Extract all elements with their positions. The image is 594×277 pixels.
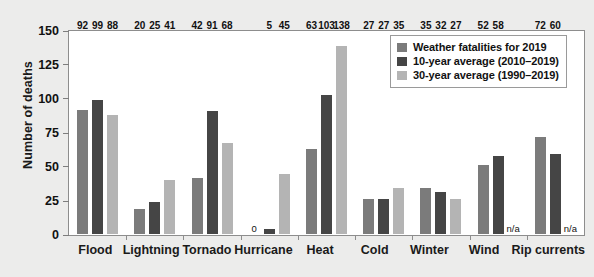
- x-axis-category-label: Lightning: [123, 243, 180, 257]
- x-axis-category-label: Cold: [347, 243, 402, 257]
- legend-swatch-icon: [397, 57, 407, 66]
- bar-slot: 5: [263, 31, 276, 235]
- x-axis-category-label: Flood: [68, 243, 123, 257]
- bar[interactable]: 99: [91, 99, 104, 235]
- x-axis-tick-mark: [298, 235, 299, 240]
- bar-slot: 42: [191, 31, 204, 235]
- y-axis-tick: 100: [38, 92, 69, 106]
- x-axis-category-label: Tornado: [180, 243, 235, 257]
- bar-value-label: 99: [92, 20, 103, 31]
- bar-slot: 99: [91, 31, 104, 235]
- bar-group: 429168: [183, 31, 240, 235]
- bar[interactable]: 35: [419, 187, 432, 235]
- bar-slot: 25: [148, 31, 161, 235]
- bar-value-label: 42: [191, 20, 202, 31]
- bar-value-label: 92: [77, 20, 88, 31]
- bar[interactable]: 72: [534, 136, 547, 235]
- bar-value-label: 88: [107, 20, 118, 31]
- y-axis-tick-label: 75: [45, 126, 59, 140]
- x-axis-tick-mark: [183, 235, 184, 240]
- x-axis-category-label: Rip currents: [511, 243, 585, 257]
- y-axis-tick: 150: [38, 24, 69, 38]
- y-axis-title: Number of deaths: [21, 35, 35, 195]
- bar-value-label: 0: [252, 223, 257, 234]
- bar-slot: 88: [106, 31, 119, 235]
- x-axis-tick-mark: [355, 235, 356, 240]
- x-axis-labels: FloodLightningTornadoHurricaneHeatColdWi…: [68, 243, 585, 257]
- bar[interactable]: 58: [492, 155, 505, 235]
- bar-value-label: 5: [266, 20, 272, 31]
- bar-group: 63103138: [298, 31, 355, 235]
- x-axis-tick-mark: [126, 235, 127, 240]
- bar-group: 929988: [69, 31, 126, 235]
- legend-swatch-icon: [397, 71, 407, 80]
- bar-value-label: 25: [149, 20, 160, 31]
- x-axis-tick-mark: [470, 235, 471, 240]
- bar-slot: 91: [206, 31, 219, 235]
- bar-slot: 103: [320, 31, 333, 235]
- bar-value-label: 60: [550, 20, 561, 31]
- bar[interactable]: 35: [392, 187, 405, 235]
- bar[interactable]: 5: [263, 228, 276, 235]
- bar-value-label: 35: [393, 20, 404, 31]
- bar[interactable]: 20: [133, 208, 146, 235]
- x-axis-tick-mark: [527, 235, 528, 240]
- bar[interactable]: 52: [477, 164, 490, 235]
- legend-item[interactable]: 10-year average (2010–2019): [397, 54, 559, 68]
- bar[interactable]: 91: [206, 110, 219, 235]
- bar-value-label: 58: [493, 20, 504, 31]
- x-axis-category-label: Wind: [457, 243, 512, 257]
- bar[interactable]: 103: [320, 94, 333, 235]
- bar-value-label: 45: [279, 20, 290, 31]
- x-axis-category-label: Winter: [402, 243, 457, 257]
- bar-value-label: 27: [378, 20, 389, 31]
- bar-slot: 20: [133, 31, 146, 235]
- bar[interactable]: 25: [148, 201, 161, 235]
- legend-swatch-icon: [397, 43, 407, 52]
- legend: Weather fatalities for 201910-year avera…: [390, 35, 567, 88]
- weather-fatalities-bar-chart: Number of deaths 0255075100125150 929988…: [0, 0, 594, 277]
- bar-value-label: 27: [363, 20, 374, 31]
- y-axis-tick-label: 25: [45, 194, 59, 208]
- bar-value-label: 138: [333, 20, 350, 31]
- bar-slot: 63: [305, 31, 318, 235]
- bar-slot: 68: [221, 31, 234, 235]
- bar[interactable]: 27: [449, 198, 462, 235]
- legend-label: 10-year average (2010–2019): [413, 55, 559, 67]
- bar[interactable]: 27: [362, 198, 375, 235]
- bar[interactable]: 138: [335, 45, 348, 235]
- y-axis-tick-label: 0: [52, 228, 59, 242]
- bar[interactable]: 88: [106, 114, 119, 235]
- bar-value-label: 52: [478, 20, 489, 31]
- bar-slot: 92: [76, 31, 89, 235]
- bar-value-label: 20: [134, 20, 145, 31]
- bar[interactable]: 45: [278, 173, 291, 235]
- legend-item[interactable]: 30-year average (1990–2019): [397, 68, 559, 82]
- bar[interactable]: 41: [163, 179, 176, 235]
- bar-value-label: 27: [450, 20, 461, 31]
- bar-value-label: 68: [221, 20, 232, 31]
- bar-group: 0545: [241, 31, 298, 235]
- y-axis-tick-label: 150: [38, 24, 59, 38]
- bar-slot: 0: [248, 31, 261, 235]
- y-axis-tick: 50: [45, 160, 69, 174]
- bar-value-label: 41: [164, 20, 175, 31]
- bar[interactable]: 92: [76, 109, 89, 235]
- bar[interactable]: 42: [191, 177, 204, 235]
- bar[interactable]: 68: [221, 142, 234, 235]
- bar-value-label: 72: [535, 20, 546, 31]
- y-axis-tick: 75: [45, 126, 69, 140]
- bar-value-label: 91: [206, 20, 217, 31]
- legend-label: Weather fatalities for 2019: [413, 41, 546, 53]
- legend-item[interactable]: Weather fatalities for 2019: [397, 40, 559, 54]
- bar-value-label: n/a: [507, 223, 520, 234]
- bar-slot: 138: [335, 31, 348, 235]
- bar-slot: 27: [362, 31, 375, 235]
- bar[interactable]: 32: [434, 191, 447, 235]
- bar[interactable]: 27: [377, 198, 390, 235]
- y-axis-tick-label: 50: [45, 160, 59, 174]
- bar[interactable]: 60: [549, 153, 562, 235]
- bar-slot: 41: [163, 31, 176, 235]
- bar[interactable]: 63: [305, 148, 318, 235]
- legend-label: 30-year average (1990–2019): [413, 69, 559, 81]
